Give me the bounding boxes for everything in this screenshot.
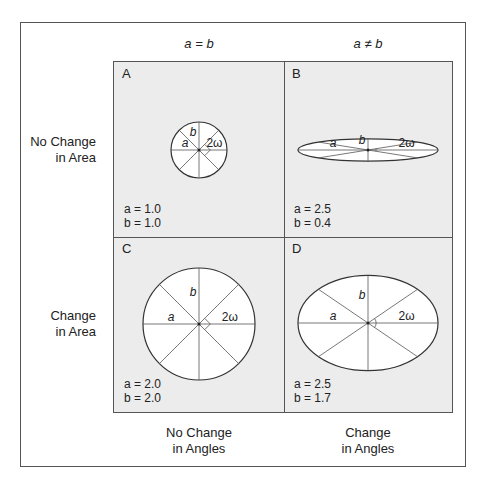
panel-c-b-value: b = 2.0 [124, 391, 161, 405]
column-header-a-equals-b: a = b [114, 36, 284, 51]
footer-line1: Change [283, 425, 453, 441]
footer-line2: in Angles [283, 441, 453, 457]
footer-no-change-in-angles: No Change in Angles [114, 425, 284, 457]
panel-d-a-value: a = 2.5 [294, 377, 331, 391]
panel-label-a: A [122, 66, 131, 81]
panel-c-a-value: a = 2.0 [124, 377, 161, 391]
panel-grid: A B C D a = 1.0 b = 1.0 a = 2.5 b = 0.4 … [113, 61, 453, 413]
panel-label-d: D [292, 241, 301, 256]
panel-a-values: a = 1.0 b = 1.0 [124, 202, 161, 230]
panel-d-b-value: b = 1.7 [294, 391, 331, 405]
panel-b-b-value: b = 0.4 [294, 216, 331, 230]
panel-b-a-value: a = 2.5 [294, 202, 331, 216]
panel-b-values: a = 2.5 b = 0.4 [294, 202, 331, 230]
panel-d-values: a = 2.5 b = 1.7 [294, 377, 331, 405]
panel-label-c: C [122, 241, 131, 256]
row-header-line1: Change [50, 308, 96, 324]
footer-line1: No Change [114, 425, 284, 441]
footer-line2: in Angles [114, 441, 284, 457]
panel-a-a-value: a = 1.0 [124, 202, 161, 216]
row-header-no-change-in-area: No Change in Area [30, 134, 96, 166]
row-header-line1: No Change [30, 134, 96, 150]
panel-a-b-value: b = 1.0 [124, 216, 161, 230]
row-header-change-in-area: Change in Area [50, 308, 96, 340]
panel-label-b: B [292, 66, 301, 81]
horizontal-divider [114, 237, 452, 238]
row-header-line2: in Area [30, 150, 96, 166]
footer-change-in-angles: Change in Angles [283, 425, 453, 457]
row-header-line2: in Area [50, 324, 96, 340]
panel-c-values: a = 2.0 b = 2.0 [124, 377, 161, 405]
column-header-a-not-equal-b: a ≠ b [283, 36, 453, 51]
